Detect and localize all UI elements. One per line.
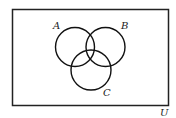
set-a-circle — [56, 28, 95, 67]
set-c-circle — [71, 50, 111, 90]
universe-rectangle — [13, 10, 169, 106]
set-b-circle — [86, 28, 125, 67]
set-a-label: A — [52, 20, 60, 31]
universe-label: U — [160, 107, 169, 118]
venn-diagram: A B C U — [0, 0, 176, 118]
set-c-label: C — [103, 87, 111, 98]
set-b-label: B — [120, 20, 128, 31]
